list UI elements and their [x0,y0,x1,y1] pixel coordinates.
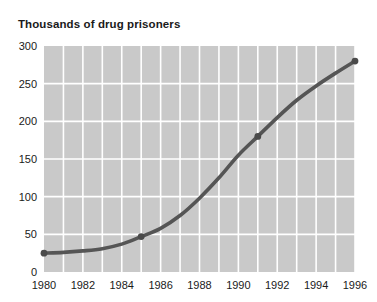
y-axis-tick-label: 250 [19,78,37,90]
y-axis-tick-label: 0 [31,266,37,278]
data-point-marker [41,250,48,257]
x-axis-tick-label: 1982 [71,279,95,291]
x-axis-tick-label: 1990 [226,279,250,291]
line-chart-plot: 050100150200250300 198019821984198619881… [0,0,377,302]
data-point-marker [352,58,359,65]
x-axis-tick-label: 1996 [343,279,367,291]
x-axis-tick-label: 1986 [148,279,172,291]
y-axis-tick-label: 150 [19,153,37,165]
x-axis-tick-label: 1988 [187,279,211,291]
x-axis-tick-label: 1984 [110,279,134,291]
x-axis-tick-label: 1992 [265,279,289,291]
x-axis-tick-labels: 198019821984198619881990199219941996 [32,279,367,291]
y-axis-tick-label: 100 [19,191,37,203]
y-axis-tick-label: 50 [25,228,37,240]
y-axis-tick-label: 300 [19,40,37,52]
y-axis-tick-label: 200 [19,115,37,127]
chart-figure: Thousands of drug prisoners 050100150200… [0,0,377,302]
y-axis-tick-labels: 050100150200250300 [19,40,37,278]
data-point-marker [138,233,145,240]
x-axis-tick-label: 1980 [32,279,56,291]
data-point-marker [254,133,261,140]
x-axis-tick-label: 1994 [304,279,328,291]
